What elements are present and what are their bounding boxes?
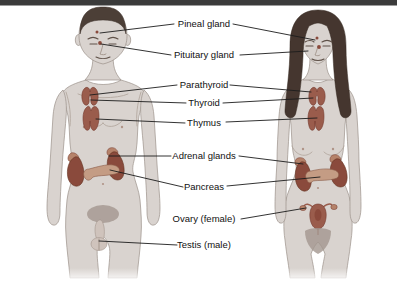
male-thymus-gland	[83, 106, 99, 130]
endocrine-diagram: Pineal gland Pituitary gland Parathyroid…	[0, 0, 397, 288]
male-pineal-gland	[96, 31, 99, 34]
female-pineal-gland	[316, 37, 319, 40]
female-ovary-right	[331, 204, 337, 209]
male-figure	[47, 7, 160, 278]
top-bar	[0, 0, 397, 6]
female-pituitary-gland	[317, 45, 321, 49]
label-pineal-gland: Pineal gland	[178, 18, 230, 29]
label-thyroid: Thyroid	[188, 97, 220, 108]
female-figure	[275, 10, 361, 278]
label-testis: Testis (male)	[177, 239, 231, 250]
label-ovary: Ovary (female)	[173, 213, 236, 224]
label-pancreas: Pancreas	[184, 181, 224, 192]
male-right-arm	[141, 90, 160, 225]
diagram-canvas: Pineal gland Pituitary gland Parathyroid…	[0, 0, 397, 288]
label-parathyroid: Parathyroid	[180, 79, 229, 90]
male-left-arm	[47, 90, 66, 225]
label-thymus: Thymus	[187, 117, 221, 128]
bottom-fade	[0, 268, 397, 282]
label-adrenal-glands: Adrenal glands	[172, 150, 236, 161]
leader-adrenal-female	[239, 156, 303, 164]
label-pituitary-gland: Pituitary gland	[174, 49, 234, 60]
labels: Pineal gland Pituitary gland Parathyroid…	[172, 18, 236, 250]
